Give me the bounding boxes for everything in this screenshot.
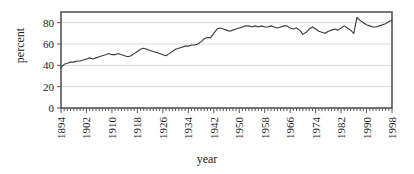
x-tick-label: 1902 [80,117,92,139]
x-tick-label: 1998 [386,117,398,140]
plot-border [61,12,392,108]
y-axis-tick-labels: 020406080 [43,17,55,114]
x-tick-label: 1982 [335,117,347,139]
y-axis-title: percent [13,16,28,76]
y-tick-label: 80 [43,17,55,29]
plot-frame [61,12,392,108]
x-axis-title: year [0,152,414,167]
x-tick-label: 1918 [131,117,143,140]
y-tick-label: 60 [43,38,55,50]
x-tick-label: 1990 [361,117,373,140]
series-line-percent [61,17,392,67]
y-tick-label: 40 [43,59,55,71]
chart-canvas: 020406080 189419021910191819261934194219… [0,0,414,174]
x-tick-label: 1926 [157,117,169,140]
line-chart-figure: 020406080 189419021910191819261934194219… [0,0,414,174]
x-tick-label: 1958 [259,117,271,140]
x-axis-tick-labels: 1894190219101918192619341942195019581966… [55,117,398,140]
x-tick-label: 1966 [284,117,296,140]
x-tick-label: 1910 [106,117,118,140]
y-tick-label: 20 [43,81,55,93]
y-tick-label: 0 [49,102,55,114]
x-tick-label: 1950 [233,117,245,140]
x-tick-label: 1934 [182,117,194,140]
data-series-line [61,17,392,67]
x-tick-label: 1942 [208,117,220,139]
x-tick-label: 1974 [310,117,322,140]
x-tick-label: 1894 [55,117,67,140]
